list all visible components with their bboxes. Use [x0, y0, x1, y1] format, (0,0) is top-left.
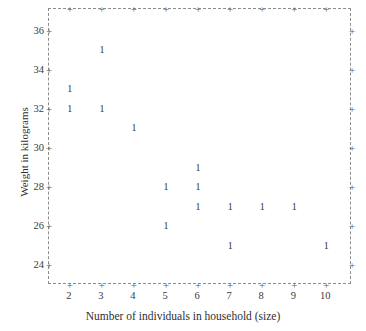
- y-tick-mark-left: +: [46, 182, 52, 193]
- y-tick-label: 36: [22, 24, 44, 35]
- data-point-marker: 1: [228, 202, 233, 212]
- y-tick-mark-right: +: [349, 142, 355, 153]
- x-tick-label: 10: [320, 290, 331, 301]
- x-tick-label: 7: [227, 290, 232, 301]
- y-tick-mark-left: +: [46, 221, 52, 232]
- y-tick-mark-left: +: [46, 260, 52, 271]
- x-tick-label: 9: [291, 290, 296, 301]
- y-tick-mark-right: +: [349, 25, 355, 36]
- y-tick-label: 30: [22, 141, 44, 152]
- data-point-marker: 1: [196, 202, 201, 212]
- x-tick-label: 6: [194, 290, 199, 301]
- data-point-marker: 1: [228, 241, 233, 251]
- y-tick-mark-right: +: [349, 260, 355, 271]
- x-tick-mark-bottom: +: [227, 280, 233, 291]
- x-tick-mark-top: +: [67, 4, 73, 15]
- x-tick-label: 8: [259, 290, 264, 301]
- data-point-marker: 1: [196, 182, 201, 192]
- x-tick-mark-bottom: +: [99, 280, 105, 291]
- x-tick-mark-top: +: [195, 4, 201, 15]
- x-tick-mark-bottom: +: [323, 280, 329, 291]
- y-tick-mark-right: +: [349, 103, 355, 114]
- x-tick-mark-top: +: [99, 4, 105, 15]
- x-tick-mark-bottom: +: [67, 280, 73, 291]
- data-point-marker: 1: [131, 123, 136, 133]
- x-tick-label: 2: [66, 290, 71, 301]
- x-axis-title: Number of individuals in household (size…: [0, 310, 366, 322]
- data-point-marker: 1: [99, 45, 104, 55]
- x-tick-mark-top: +: [227, 4, 233, 15]
- y-tick-label: 24: [22, 259, 44, 270]
- x-tick-mark-top: +: [163, 4, 169, 15]
- x-tick-label: 5: [162, 290, 167, 301]
- x-tick-mark-top: +: [323, 4, 329, 15]
- x-tick-mark-top: +: [259, 4, 265, 15]
- x-tick-label: 4: [130, 290, 135, 301]
- x-tick-mark-bottom: +: [163, 280, 169, 291]
- y-tick-label: 26: [22, 220, 44, 231]
- data-point-marker: 1: [67, 104, 72, 114]
- x-tick-mark-bottom: +: [291, 280, 297, 291]
- x-tick-mark-bottom: +: [195, 280, 201, 291]
- y-tick-label: 28: [22, 181, 44, 192]
- x-tick-label: 3: [98, 290, 103, 301]
- data-point-marker: 1: [99, 104, 104, 114]
- y-tick-label: 34: [22, 63, 44, 74]
- data-point-marker: 1: [292, 202, 297, 212]
- x-tick-mark-bottom: +: [259, 280, 265, 291]
- data-point-marker: 1: [260, 202, 265, 212]
- plot-area: ++++++++++++++++++++++++++++++++ 1111111…: [48, 8, 351, 284]
- y-tick-mark-right: +: [349, 221, 355, 232]
- data-point-marker: 1: [324, 241, 329, 251]
- y-tick-label: 32: [22, 102, 44, 113]
- x-tick-mark-bottom: +: [131, 280, 137, 291]
- x-tick-mark-top: +: [131, 4, 137, 15]
- data-point-marker: 1: [164, 221, 169, 231]
- y-tick-mark-right: +: [349, 64, 355, 75]
- data-point-marker: 1: [164, 182, 169, 192]
- y-tick-mark-left: +: [46, 64, 52, 75]
- y-tick-mark-left: +: [46, 142, 52, 153]
- data-point-marker: 1: [196, 163, 201, 173]
- scatter-plot-figure: Weight in kilograms Number of individual…: [0, 0, 366, 331]
- data-point-marker: 1: [67, 84, 72, 94]
- y-tick-mark-left: +: [46, 25, 52, 36]
- x-tick-mark-top: +: [291, 4, 297, 15]
- y-tick-mark-left: +: [46, 103, 52, 114]
- y-tick-mark-right: +: [349, 182, 355, 193]
